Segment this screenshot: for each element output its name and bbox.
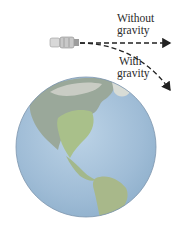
earth-globe: [16, 77, 156, 220]
diagram-canvas: [0, 0, 185, 226]
satellite-icon: [50, 37, 79, 48]
